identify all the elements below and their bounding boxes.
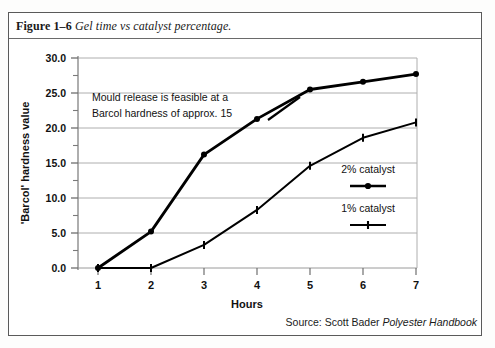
annotation-callout: Mould release is feasible at a Barcol ha… [92,91,232,119]
data-point [413,71,419,77]
y-axis-major-ticks [71,58,78,268]
x-tick-label: 5 [307,279,313,291]
x-tick-label: 7 [413,279,419,291]
series-line [98,122,416,268]
y-tick-label: 30.0 [46,52,67,64]
series-1pct-catalyst [98,118,416,272]
annotation-line-2: Barcol hardness of approx. 15 [92,107,232,119]
y-axis-title: 'Barcol' hardness value [19,102,31,225]
legend-label-2pct: 2% catalyst [341,163,395,175]
data-point [307,87,313,93]
x-tick-label: 2 [148,279,154,291]
x-tick-label: 6 [360,279,366,291]
x-tick-label: 4 [254,279,261,291]
gel-time-chart: 30.0 25.0 20.0 15.0 10.0 5.0 0.0 'Barcol… [0,0,495,348]
legend-swatch-1pct [350,221,386,229]
legend-label-1pct: 1% catalyst [341,202,395,214]
x-tick-label: 1 [95,279,101,291]
x-axis-tick-labels: 1 2 3 4 5 6 7 [95,279,419,291]
data-point [360,79,366,85]
y-tick-label: 20.0 [46,122,67,134]
data-point [254,116,260,122]
chart-legend: 2% catalyst 1% catalyst [341,163,395,229]
legend-swatch-2pct [350,183,386,189]
x-axis-ticks [98,268,416,275]
figure-source: Source: Scott Bader Polyester Handbook [286,316,477,328]
y-axis-tick-labels: 30.0 25.0 20.0 15.0 10.0 5.0 0.0 [46,52,67,274]
y-tick-label: 15.0 [46,157,67,169]
annotation-line-1: Mould release is feasible at a [92,91,228,103]
data-point [148,229,154,235]
x-axis-title: Hours [231,298,263,310]
data-point [201,152,207,158]
source-prefix: Source: Scott Bader [286,316,383,328]
y-tick-label: 5.0 [51,227,66,239]
figure-page: Figure 1–6 Gel time vs catalyst percenta… [0,0,495,348]
y-tick-label: 25.0 [46,87,67,99]
annotation-leader-line [268,97,300,120]
y-tick-label: 10.0 [46,192,67,204]
source-title: Polyester Handbook [382,316,477,328]
y-tick-label: 0.0 [51,262,66,274]
x-tick-label: 3 [201,279,207,291]
